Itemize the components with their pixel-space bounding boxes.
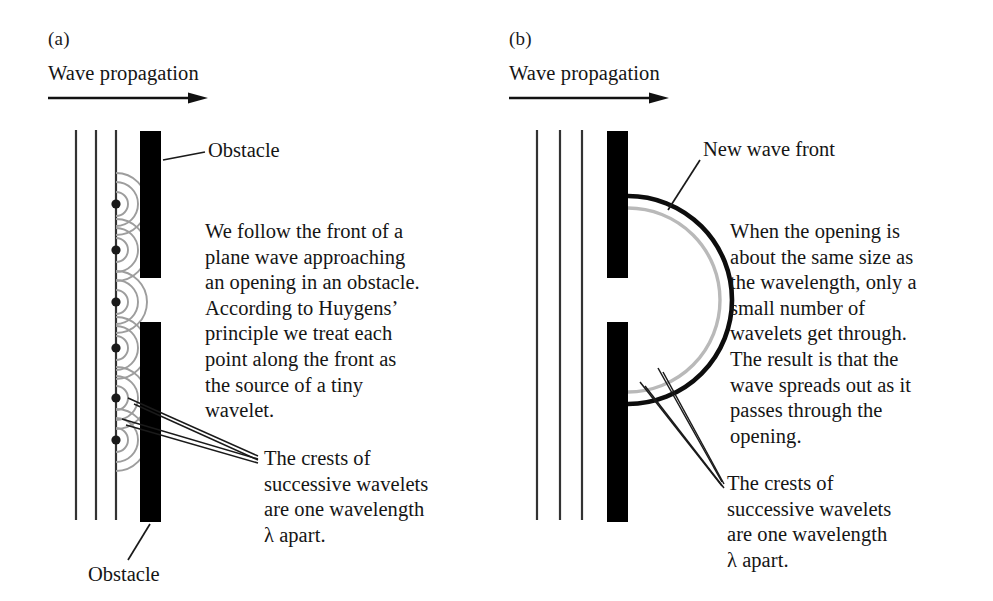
panel-b-crest-line: The crests of xyxy=(727,471,891,497)
obstacle-bottom-label: Obstacle xyxy=(88,562,160,588)
panel-a-crest-line: The crests of xyxy=(264,446,428,472)
panel-b-label: (b) xyxy=(509,28,532,50)
panel-b-crest-callout: The crests of successive wavelets are on… xyxy=(727,471,891,573)
panel-a-body-line: plane wave approaching xyxy=(205,245,420,271)
panel-a-body-text: We follow the front of a plane wave appr… xyxy=(205,219,420,424)
panel-b-crest-line: are one wavelength xyxy=(727,522,891,548)
panel-a-crest-line: λ apart. xyxy=(264,523,428,549)
wave-front-inner-arc xyxy=(628,208,720,392)
panel-b-body-line: the wavelength, only a xyxy=(730,270,917,296)
panel-a-body-line: wavelet. xyxy=(205,398,420,424)
wavelet-source-dots xyxy=(111,199,120,444)
panel-a-body-line: the source of a tiny xyxy=(205,373,420,399)
panel-b-body-line: When the opening is xyxy=(730,219,917,245)
obstacle-top-label: Obstacle xyxy=(208,138,280,164)
obstacle-bar-bottom xyxy=(607,322,628,522)
panel-b: (b) Wave propagation xyxy=(500,0,993,601)
plane-wave-lines xyxy=(537,130,582,520)
panel-b-body-line: opening. xyxy=(730,424,917,450)
panel-a: (a) Wave propagation xyxy=(0,0,500,601)
panel-a-body-line: point along the front as xyxy=(205,347,420,373)
huygens-wavelets xyxy=(116,173,147,471)
new-wave-front xyxy=(628,196,732,404)
panel-b-body-line: wave spreads out as it xyxy=(730,373,917,399)
panel-a-body-line: We follow the front of a xyxy=(205,219,420,245)
panel-b-body-line: small number of xyxy=(730,296,917,322)
panel-a-label: (a) xyxy=(48,28,70,50)
panel-b-propagation-label: Wave propagation xyxy=(509,62,660,85)
panel-b-crest-line: λ apart. xyxy=(727,548,891,574)
panel-b-body-line: about the same size as xyxy=(730,245,917,271)
arrow-right-icon xyxy=(48,92,208,104)
panel-b-body-text: When the opening is about the same size … xyxy=(730,219,917,449)
obstacle-top-leader-line xyxy=(163,152,205,160)
wavefront-leader-line xyxy=(668,160,700,210)
obstacle-bar-bottom xyxy=(140,322,161,522)
panel-a-body-line: According to Huygens’ xyxy=(205,296,420,322)
wave-front-outer-arc xyxy=(628,196,732,404)
obstacle-bar-top xyxy=(140,131,161,278)
panel-b-body-line: The result is that the xyxy=(730,347,917,373)
new-wave-front-label: New wave front xyxy=(703,137,835,163)
obstacle-bar-top xyxy=(607,131,628,278)
crest-leader-lines xyxy=(640,368,724,488)
plane-wave-lines xyxy=(76,130,116,520)
panel-a-crest-callout: The crests of successive wavelets are on… xyxy=(264,446,428,548)
panel-a-propagation-label: Wave propagation xyxy=(48,62,199,85)
obstacle-bottom-leader-line xyxy=(128,524,150,560)
arrow-right-icon xyxy=(509,92,669,104)
panel-b-body-line: wavelets get through. xyxy=(730,321,917,347)
panel-a-body-line: an opening in an obstacle. xyxy=(205,270,420,296)
panel-a-crest-line: successive wavelets xyxy=(264,472,428,498)
panel-b-body-line: passes through the xyxy=(730,398,917,424)
panel-b-crest-line: successive wavelets xyxy=(727,497,891,523)
panel-a-body-line: principle we treat each xyxy=(205,321,420,347)
panel-a-crest-line: are one wavelength xyxy=(264,497,428,523)
